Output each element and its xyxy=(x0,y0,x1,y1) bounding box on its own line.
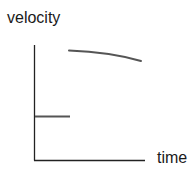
x-axis-label: time xyxy=(157,150,187,166)
y-axis-label: velocity xyxy=(7,10,60,26)
series-decreasing-curve xyxy=(69,51,141,62)
velocity-time-chart: velocity time xyxy=(0,0,193,177)
